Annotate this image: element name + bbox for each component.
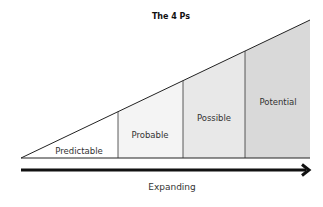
segment-probable	[118, 81, 183, 158]
label-predictable: Predictable	[55, 146, 102, 156]
axis-label-expanding: Expanding	[148, 182, 196, 192]
label-probable: Probable	[131, 130, 168, 140]
four-ps-diagram: Predictable Probable Possible Potential …	[0, 0, 323, 207]
label-potential: Potential	[259, 97, 296, 107]
label-possible: Possible	[197, 113, 231, 123]
segment-potential	[245, 20, 310, 158]
diagram-title: The 4 Ps	[152, 12, 190, 21]
segment-possible	[183, 51, 245, 158]
